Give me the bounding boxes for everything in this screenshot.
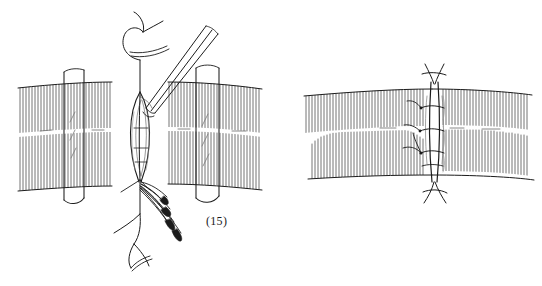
tissue-hatch-left-bottom	[312, 130, 423, 180]
figure-15-illustration	[0, 0, 280, 286]
tissue-hatch-right-bottom	[443, 130, 527, 178]
tissue-hatch-left-top	[306, 89, 423, 134]
tissue-hatch-left-top	[20, 82, 110, 134]
suture-strands-bottom	[121, 180, 182, 241]
tissue-hatch-left-bottom	[20, 130, 110, 192]
suture-knot-top	[422, 64, 446, 84]
tissue-hatch-right-top	[169, 82, 259, 133]
tissue-midline-dashes	[40, 129, 246, 131]
suture-stitches	[403, 101, 444, 166]
figure-sheet: (15)	[0, 0, 542, 286]
tissue-hatch-right-bottom	[169, 130, 259, 190]
retractor-right	[196, 65, 219, 202]
suture-knot-bottom	[423, 182, 447, 203]
figure-panel-15: (15)	[0, 0, 280, 286]
tissue-midline-dashes	[380, 128, 500, 129]
figure-16-illustration	[280, 0, 542, 286]
suture-knot-top	[123, 12, 169, 60]
suture-needle-4	[140, 188, 182, 241]
repair-seam	[426, 82, 445, 182]
figure-caption-15: (15)	[206, 214, 227, 229]
core-suture-thread	[139, 60, 140, 214]
tissue-hatch-right-top	[443, 89, 527, 130]
suture-free-end-bottom	[114, 214, 152, 271]
needle-holder	[140, 26, 218, 117]
figure-panel-16: (16)	[280, 0, 542, 286]
